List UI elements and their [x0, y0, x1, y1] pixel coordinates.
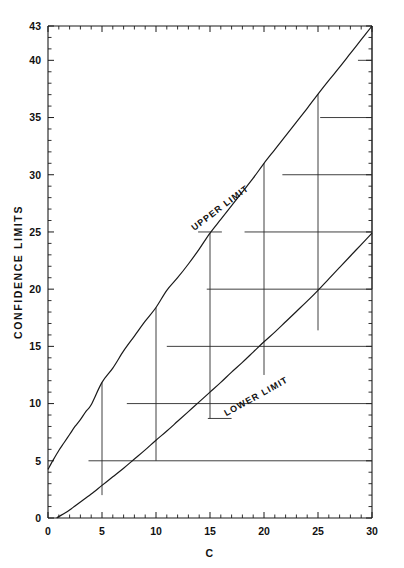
- x-tick-label: 10: [150, 525, 162, 537]
- x-tick-label: 5: [99, 525, 105, 537]
- curve-label: UPPER LIMIT: [189, 183, 250, 233]
- x-tick-label: 25: [312, 525, 324, 537]
- x-tick-label: 0: [45, 525, 51, 537]
- chart-container: 051015202530 051015202530354043 UPPER LI…: [0, 0, 404, 568]
- y-tick-label: 35: [29, 111, 41, 123]
- y-tick-label: 15: [29, 340, 41, 352]
- y-axis-title: CONFIDENCE LIMITS: [12, 205, 24, 339]
- y-tick-label: 5: [35, 455, 41, 467]
- y-tick-label: 20: [29, 283, 41, 295]
- y-axis-tick-labels: 051015202530354043: [29, 20, 41, 524]
- y-tick-label: 30: [29, 169, 41, 181]
- y-tick-label: 43: [29, 20, 41, 32]
- x-axis-title: C: [205, 547, 214, 559]
- curve-lower-limit: [57, 233, 372, 518]
- y-tick-label: 40: [29, 54, 41, 66]
- x-tick-label: 20: [258, 525, 270, 537]
- y-tick-label: 0: [35, 512, 41, 524]
- x-tick-label: 30: [366, 525, 378, 537]
- confidence-limits-chart: 051015202530 051015202530354043 UPPER LI…: [0, 0, 404, 568]
- y-tick-label: 10: [29, 397, 41, 409]
- step-grid-lines: [89, 26, 373, 495]
- x-axis-tick-labels: 051015202530: [45, 525, 378, 537]
- curve-label: LOWER LIMIT: [222, 375, 289, 418]
- curve-annotations: UPPER LIMITLOWER LIMIT: [189, 183, 289, 418]
- y-tick-label: 25: [29, 226, 41, 238]
- x-tick-label: 15: [204, 525, 216, 537]
